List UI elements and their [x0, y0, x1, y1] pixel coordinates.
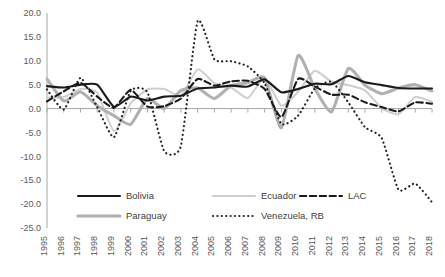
x-axis-tick-label: 2016	[391, 236, 401, 256]
legend-item-paraguay: Paraguay	[78, 210, 167, 221]
x-axis-tick-label: 2008	[257, 236, 267, 256]
x-axis-tick-label: 2015	[374, 236, 384, 256]
x-axis-tick-label: 2001	[139, 236, 149, 256]
y-axis-tick-label: 20.0	[23, 8, 41, 18]
x-axis-tick-label: 2005	[206, 236, 216, 256]
legend-label: Venezuela, RB	[261, 210, 324, 221]
x-axis-tick-label: 2010	[290, 236, 300, 256]
legend-item-venezuela-rb: Venezuela, RB	[213, 210, 324, 221]
x-axis-tick-label: 1998	[89, 236, 99, 256]
y-axis-tick-label: 15.0	[23, 32, 41, 42]
legend-label: Ecuador	[261, 190, 296, 201]
chart-container: 20.015.010.05.00.0-5.0-10.0-15.0-20.0-25…	[0, 0, 445, 277]
legend-item-ecuador: Ecuador	[213, 190, 296, 201]
x-axis-tick-label: 2013	[340, 236, 350, 256]
x-axis-tick-label: 2000	[123, 236, 133, 256]
legend-item-lac: LAC	[300, 190, 367, 201]
y-axis-tick-label: 0.0	[28, 104, 41, 114]
y-axis-tick-label: 5.0	[28, 80, 41, 90]
x-axis-tick-label: 2018	[424, 236, 434, 256]
y-axis-tick-label: -5.0	[25, 128, 41, 138]
series-line-paraguay	[47, 55, 432, 128]
x-axis-tick-label: 2003	[173, 236, 183, 256]
x-axis-tick-label: 2012	[324, 236, 334, 256]
x-axis-tick-label: 1999	[106, 236, 116, 256]
x-axis-tick-label: 2002	[156, 236, 166, 256]
x-axis-tick-label: 1996	[56, 236, 66, 256]
x-axis-tick-label: 1995	[39, 236, 49, 256]
y-axis-tick-label: -15.0	[20, 175, 41, 185]
y-axis-tick-label: -20.0	[20, 199, 41, 209]
legend-item-bolivia: Bolivia	[78, 190, 155, 201]
x-axis-tick-label: 2006	[223, 236, 233, 256]
x-axis-tick-label: 2004	[190, 236, 200, 256]
legend-label: Paraguay	[126, 210, 167, 221]
y-axis-tick-label: -10.0	[20, 152, 41, 162]
x-axis-tick-label: 2017	[407, 236, 417, 256]
x-axis-tick-label: 2009	[273, 236, 283, 256]
x-axis-tick-label: 1997	[72, 236, 82, 256]
series-line-ecuador	[47, 69, 432, 131]
legend-label: Bolivia	[126, 190, 155, 201]
x-axis-tick-label: 2007	[240, 236, 250, 256]
y-axis-tick-label: -25.0	[20, 223, 41, 233]
x-axis-tick-label: 2014	[357, 236, 367, 256]
x-axis-tick-label: 2011	[307, 236, 317, 255]
y-axis-tick-label: 10.0	[23, 56, 41, 66]
line-chart: 20.015.010.05.00.0-5.0-10.0-15.0-20.0-25…	[0, 0, 445, 277]
legend-label: LAC	[348, 190, 367, 201]
